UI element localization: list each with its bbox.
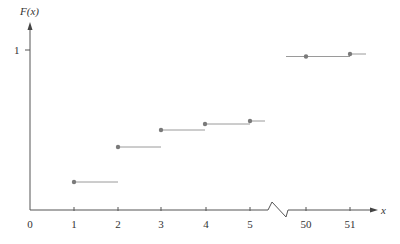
x-tick-label-5: 5 bbox=[247, 218, 253, 230]
x-tick-label-4: 4 bbox=[203, 218, 209, 230]
x-axis-label: x bbox=[380, 204, 386, 216]
cdf-chart: F(x) 1 x 0 1 2 3 4 5 50 51 bbox=[0, 0, 400, 244]
x-tick-label-50: 50 bbox=[301, 218, 313, 230]
y-axis-label: F(x) bbox=[19, 5, 39, 18]
x-tick-label-2: 2 bbox=[115, 218, 121, 230]
y-axis-arrow-icon bbox=[28, 22, 33, 30]
point-51 bbox=[348, 52, 352, 56]
x-tick-label-1: 1 bbox=[71, 218, 77, 230]
point-2 bbox=[116, 145, 120, 149]
step-points bbox=[72, 52, 352, 184]
x-axis-arrow-icon bbox=[370, 208, 378, 213]
x-tick-label-0: 0 bbox=[27, 218, 33, 230]
y-tick-label-1: 1 bbox=[14, 44, 20, 56]
x-axis bbox=[30, 202, 372, 217]
x-tick-label-3: 3 bbox=[158, 218, 164, 230]
x-tick-label-51: 51 bbox=[345, 218, 356, 230]
step-segments bbox=[74, 54, 366, 182]
point-3 bbox=[159, 128, 163, 132]
point-50 bbox=[304, 54, 308, 58]
point-4 bbox=[203, 122, 207, 126]
point-1 bbox=[72, 180, 76, 184]
point-5 bbox=[248, 119, 252, 123]
